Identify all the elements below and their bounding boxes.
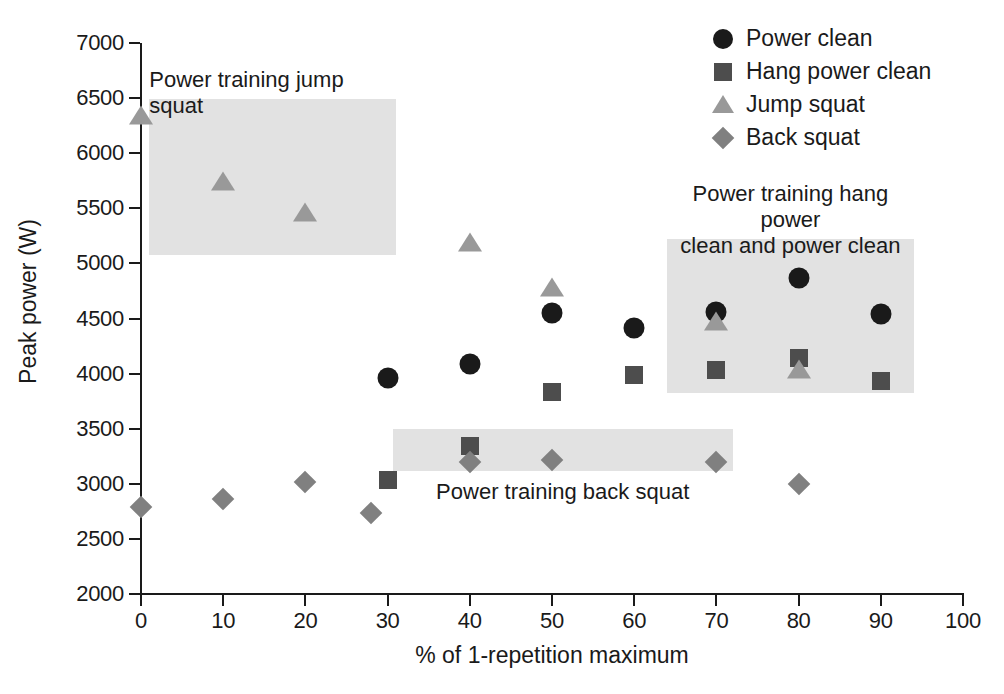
- data-point: [540, 277, 564, 296]
- y-axis-title: Peak power (W): [17, 192, 40, 412]
- x-axis-tick-label: 20: [293, 610, 317, 632]
- square-marker-icon: [710, 59, 736, 85]
- data-point: [211, 171, 235, 190]
- y-axis-tick-label-text: 3500: [76, 418, 124, 440]
- y-axis-tick-label-text: 6500: [76, 87, 124, 109]
- data-point: [625, 366, 643, 384]
- data-point: [787, 472, 810, 495]
- scatter-chart-figure: Power training jump squatPower training …: [0, 0, 1004, 694]
- legend-item-jump-squat: Jump squat: [710, 88, 990, 121]
- circle-marker-icon: [710, 26, 736, 52]
- circle-glyph: [713, 29, 733, 49]
- x-axis-tick: [387, 595, 389, 606]
- data-point: [624, 318, 645, 339]
- data-point: [707, 361, 725, 379]
- triangle-glyph: [712, 95, 734, 113]
- y-axis-tick: [129, 428, 140, 430]
- y-axis-tick-label: 2000: [0, 583, 124, 605]
- data-point: [788, 267, 809, 288]
- y-axis-tick: [129, 207, 140, 209]
- y-axis-tick: [129, 262, 140, 264]
- y-axis-tick-label-text: 2000: [76, 583, 124, 605]
- data-point: [293, 202, 317, 221]
- data-point: [360, 502, 383, 525]
- data-point: [705, 451, 728, 474]
- x-axis-tick-label: 40: [458, 610, 482, 632]
- data-point: [377, 368, 398, 389]
- x-axis-tick-label: 100: [945, 610, 981, 632]
- data-point: [130, 496, 153, 519]
- x-axis-tick-label: 80: [787, 610, 811, 632]
- data-point: [379, 471, 397, 489]
- legend-item-label: Back squat: [746, 126, 860, 149]
- x-axis-tick: [140, 595, 142, 606]
- x-axis-tick: [304, 595, 306, 606]
- data-point: [541, 449, 564, 472]
- x-axis-tick-label: 60: [622, 610, 646, 632]
- y-axis-tick-label-text: 4000: [76, 363, 124, 385]
- data-point: [542, 302, 563, 323]
- y-axis-tick-label-text: 6000: [76, 142, 124, 164]
- data-point: [129, 105, 153, 124]
- data-point: [704, 312, 728, 331]
- y-axis-tick: [129, 538, 140, 540]
- x-axis-tick: [633, 595, 635, 606]
- triangle-marker-icon: [710, 92, 736, 118]
- diamond-marker-icon: [710, 125, 736, 151]
- legend-item-hang-power-clean: Hang power clean: [710, 55, 990, 88]
- x-axis-tick: [551, 595, 553, 606]
- y-axis-tick-label: 3500: [0, 418, 124, 440]
- x-axis-title: % of 1-repetition maximum: [141, 644, 963, 667]
- chart-legend: Power cleanHang power cleanJump squatBac…: [710, 22, 990, 154]
- y-axis-tick: [129, 318, 140, 320]
- y-axis-tick-label: 6000: [0, 142, 124, 164]
- x-axis-tick-label: 10: [211, 610, 235, 632]
- legend-item-back-squat: Back squat: [710, 121, 990, 154]
- data-point: [787, 360, 811, 379]
- y-axis-tick-label-text: 4500: [76, 308, 124, 330]
- y-axis-tick-label-text: 7000: [76, 32, 124, 54]
- x-axis-tick: [962, 595, 964, 606]
- diamond-glyph: [712, 126, 735, 149]
- y-axis-tick: [129, 42, 140, 44]
- y-axis-tick: [129, 593, 140, 595]
- x-axis-tick-label: 30: [376, 610, 400, 632]
- y-axis-tick: [129, 483, 140, 485]
- data-point: [459, 353, 480, 374]
- y-axis-tick-label: 2500: [0, 528, 124, 550]
- y-axis-tick: [129, 373, 140, 375]
- x-axis-tick-label: 90: [869, 610, 893, 632]
- y-axis-tick-label: 3000: [0, 473, 124, 495]
- x-axis-tick-label: 50: [540, 610, 564, 632]
- y-axis-tick-label-text: 3000: [76, 473, 124, 495]
- data-point: [294, 471, 317, 494]
- y-axis-tick-label-text: 5500: [76, 197, 124, 219]
- y-axis-tick-label: 6500: [0, 87, 124, 109]
- square-glyph: [714, 63, 732, 81]
- legend-item-power-clean: Power clean: [710, 22, 990, 55]
- x-axis-tick: [469, 595, 471, 606]
- legend-item-label: Power clean: [746, 27, 873, 50]
- x-axis-tick: [715, 595, 717, 606]
- legend-item-label: Hang power clean: [746, 60, 931, 83]
- x-axis-tick: [798, 595, 800, 606]
- y-axis-tick-label: 7000: [0, 32, 124, 54]
- data-point: [870, 303, 891, 324]
- data-point: [212, 488, 235, 511]
- data-point: [543, 383, 561, 401]
- y-axis-tick: [129, 152, 140, 154]
- legend-item-label: Jump squat: [746, 93, 865, 116]
- x-axis-tick-label: 70: [704, 610, 728, 632]
- y-axis-tick: [129, 97, 140, 99]
- data-point: [458, 232, 482, 251]
- data-point: [872, 372, 890, 390]
- y-axis-tick-label-text: 5000: [76, 252, 124, 274]
- x-axis-tick: [222, 595, 224, 606]
- x-axis-tick: [880, 595, 882, 606]
- y-axis-tick-label-text: 2500: [76, 528, 124, 550]
- x-axis-tick-label: 0: [135, 610, 147, 632]
